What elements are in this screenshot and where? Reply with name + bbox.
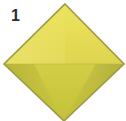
figure-container: 1 bbox=[0, 0, 126, 121]
figure-number-label: 1 bbox=[11, 7, 20, 25]
